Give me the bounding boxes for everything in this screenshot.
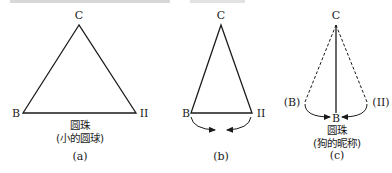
vertex-label-ii: II bbox=[140, 107, 149, 120]
equilateral-triangle bbox=[23, 25, 136, 113]
caption-line-2: (狗的昵称) bbox=[313, 137, 361, 149]
cropped-text-line bbox=[10, 0, 170, 3]
panel-b: C B II (b) bbox=[182, 9, 265, 163]
left-curved-arrow-icon bbox=[191, 117, 215, 130]
apex-label-c: C bbox=[75, 9, 83, 22]
caption-line-1: 圆珠 bbox=[327, 124, 348, 136]
vertex-label-b: B bbox=[12, 107, 20, 120]
triangle-diagram: C B II 圆珠 (小的圆球) (a) C B II (b) C (B) (I… bbox=[0, 0, 392, 173]
caption-line-1: 圆珠 bbox=[70, 119, 91, 131]
caption-line-2: (小的圆球) bbox=[56, 132, 104, 144]
panel-label-b: (b) bbox=[213, 150, 229, 163]
right-curved-arrow-icon bbox=[227, 117, 251, 130]
panel-label-a: (a) bbox=[72, 150, 87, 163]
dashed-line-right bbox=[336, 25, 367, 102]
vertex-label-ii: II bbox=[257, 107, 266, 120]
dashed-line-left bbox=[305, 25, 336, 102]
ghost-label-ii: (II) bbox=[372, 96, 389, 109]
apex-label-c: C bbox=[217, 9, 225, 22]
panel-label-c: (c) bbox=[330, 149, 345, 162]
panel-c: C (B) (II) B 圆珠 (狗的昵称) (c) bbox=[284, 9, 390, 162]
narrow-triangle bbox=[191, 25, 252, 113]
left-curved-arrow-icon bbox=[305, 104, 330, 117]
right-curved-arrow-icon bbox=[342, 104, 367, 117]
panel-a: C B II 圆珠 (小的圆球) (a) bbox=[12, 9, 148, 163]
cropped-text-line-2 bbox=[190, 0, 245, 3]
vertex-label-b: B bbox=[182, 107, 190, 120]
ghost-label-b: (B) bbox=[284, 96, 301, 109]
apex-label-c: C bbox=[332, 9, 340, 22]
